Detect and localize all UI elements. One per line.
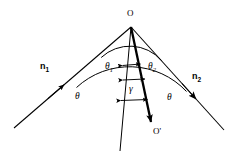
- vector-label-n1-sub: 1: [46, 66, 50, 73]
- vector-label-n2-sub: 2: [198, 76, 202, 83]
- inner-angle-arc: [101, 46, 161, 60]
- right-ray-arrowhead: [182, 84, 196, 100]
- vertex-label-o-prime: O': [153, 127, 161, 136]
- right-exit-ray: [131, 27, 224, 130]
- figure-root: O O' n1 n2 θ1 θ2 θ θ γ: [0, 0, 237, 154]
- angle-label-gamma: γ: [129, 85, 133, 95]
- angle-label-theta-left: θ: [75, 92, 80, 102]
- left-ray-line: [14, 27, 131, 128]
- vector-label-n1: n1: [40, 62, 49, 73]
- vertex-label-o: O: [127, 9, 134, 18]
- angle-label-theta1-sub: 1: [110, 66, 113, 73]
- vector-label-n2: n2: [192, 72, 201, 83]
- left-incident-ray: [14, 27, 131, 128]
- angle-label-theta-right: θ: [167, 93, 172, 103]
- right-ray-line: [131, 27, 224, 130]
- left-ray-arrowhead: [48, 85, 64, 99]
- angle-label-theta2-sub: 2: [153, 66, 156, 73]
- angle-label-theta1: θ1: [105, 62, 113, 73]
- angle-label-theta2: θ2: [148, 62, 156, 73]
- normal-vector-arrow: [131, 27, 151, 122]
- diagram-svg: [0, 0, 237, 154]
